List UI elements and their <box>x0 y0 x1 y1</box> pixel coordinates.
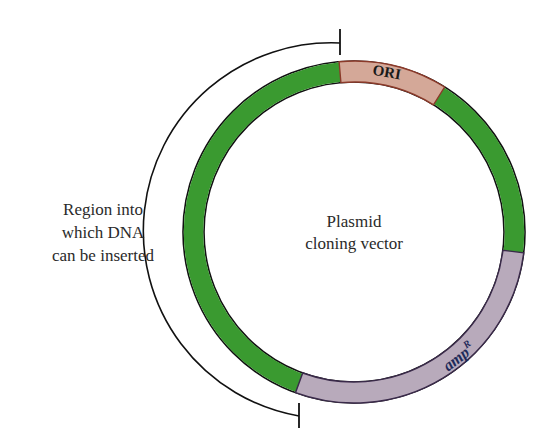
region-label-line-3: can be inserted <box>18 244 188 267</box>
insertion-region-label: Region into which DNA can be inserted <box>18 198 188 267</box>
center-label-line-2: cloning vector <box>284 233 424 255</box>
region-label-line-1: Region into <box>18 198 188 221</box>
center-label-line-1: Plasmid <box>284 211 424 233</box>
ampr-segment <box>296 250 524 403</box>
region-label-line-2: which DNA <box>18 221 188 244</box>
plasmid-center-label: Plasmid cloning vector <box>284 211 424 255</box>
